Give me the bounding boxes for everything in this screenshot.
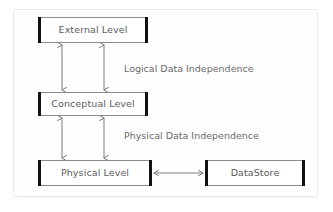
node-physical-level-label: Physical Level <box>61 168 129 178</box>
edge-label-logical-data-independence: Logical Data Independence <box>124 64 254 74</box>
edge-label-physical-data-independence: Physical Data Independence <box>124 131 259 141</box>
node-endbar-left-icon <box>205 160 208 186</box>
node-endbar-right-icon <box>302 160 305 186</box>
node-datastore[interactable]: DataStore <box>205 160 305 186</box>
node-endbar-left-icon <box>38 160 41 186</box>
node-external-level[interactable]: External Level <box>38 17 148 43</box>
node-endbar-right-icon <box>145 92 148 116</box>
node-conceptual-level-label: Conceptual Level <box>51 99 134 109</box>
diagram-canvas: External Level Conceptual Level Physical… <box>0 0 333 212</box>
node-endbar-right-icon <box>145 17 148 43</box>
node-physical-level[interactable]: Physical Level <box>38 160 152 186</box>
node-endbar-left-icon <box>38 17 41 43</box>
node-endbar-left-icon <box>38 92 41 116</box>
node-datastore-label: DataStore <box>231 168 280 178</box>
node-external-level-label: External Level <box>59 25 128 35</box>
node-conceptual-level[interactable]: Conceptual Level <box>38 92 148 116</box>
node-endbar-right-icon <box>149 160 152 186</box>
